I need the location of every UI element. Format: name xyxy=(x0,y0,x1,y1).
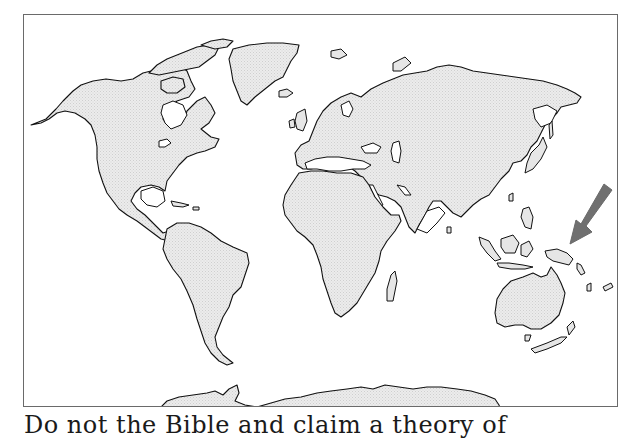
land-north-america xyxy=(31,63,219,241)
land-sumatra xyxy=(479,237,501,261)
land-madagascar xyxy=(387,271,397,301)
land-iceland xyxy=(279,89,293,97)
land-antarctica xyxy=(161,385,501,407)
land-ireland xyxy=(289,119,295,128)
land-south-america xyxy=(163,223,249,365)
arrow-shape xyxy=(570,184,612,244)
arrow-icon xyxy=(560,180,615,250)
land-new-guinea xyxy=(545,249,573,265)
land-australia xyxy=(495,267,565,329)
land-caribbean-small xyxy=(193,207,199,210)
caption-text: Do not the Bible and claim a theory of xyxy=(24,411,507,439)
land-sakhalin xyxy=(549,121,553,139)
land-sri-lanka xyxy=(447,227,451,233)
land-tasmania xyxy=(525,335,531,341)
land-caribbean xyxy=(171,201,189,207)
land-taiwan xyxy=(509,193,513,201)
land-fiji xyxy=(603,283,613,291)
world-map-svg xyxy=(23,14,618,407)
water-caspian-sea xyxy=(391,141,401,163)
land-great-britain xyxy=(295,109,307,131)
land-sulawesi xyxy=(521,241,533,257)
world-map xyxy=(23,14,618,407)
land-new-zealand-south xyxy=(531,337,567,353)
land-vanuatu xyxy=(587,283,591,291)
water-gulf-of-mexico xyxy=(141,187,165,207)
land-svalbard xyxy=(331,49,347,59)
land-new-zealand-north xyxy=(567,321,575,335)
land-philippines xyxy=(521,207,533,229)
land-java xyxy=(497,263,533,269)
land-arctic-islands xyxy=(149,45,219,75)
land-novaya-zemlya xyxy=(393,57,411,71)
land-solomon-islands xyxy=(577,263,585,275)
land-borneo xyxy=(501,235,519,253)
